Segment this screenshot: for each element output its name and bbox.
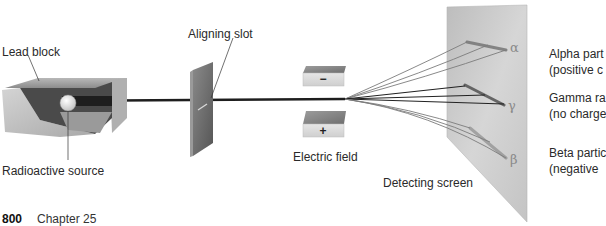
- beta-mark: β: [510, 153, 518, 167]
- legend-alpha-line2: (positive c: [549, 63, 603, 77]
- label-aligning-slot: Aligning slot: [188, 27, 253, 41]
- lead-block: [2, 78, 127, 137]
- legend-gamma-line1: Gamma ra: [549, 91, 606, 105]
- legend-beta-line2: (negative: [549, 162, 598, 176]
- legend-gamma-line2: (no charge: [549, 107, 606, 121]
- positive-sign: +: [313, 125, 333, 137]
- legend-beta-line1: Beta partic: [549, 146, 606, 160]
- alpha-mark: α: [510, 41, 519, 55]
- label-lead-block: Lead block: [2, 45, 60, 59]
- aligning-slot-plate: [190, 62, 213, 157]
- label-radioactive-source: Radioactive source: [2, 164, 104, 178]
- gamma-mark: γ: [508, 99, 516, 113]
- negative-sign: −: [313, 73, 333, 85]
- page-number: 800: [2, 212, 22, 226]
- chapter-label: Chapter 25: [37, 212, 96, 226]
- leader-aligning-slot: [211, 38, 233, 98]
- label-electric-field: Electric field: [293, 150, 358, 164]
- label-detecting-screen: Detecting screen: [383, 176, 473, 190]
- legend-alpha-line1: Alpha part: [549, 47, 604, 61]
